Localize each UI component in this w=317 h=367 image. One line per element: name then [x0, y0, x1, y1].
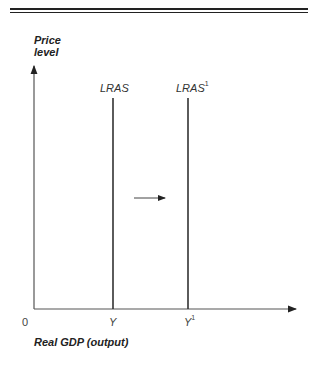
x-axis-label: Real GDP (output) [34, 336, 128, 348]
x-tick-y1: Y1 [184, 316, 195, 328]
lras-label: LRAS [100, 82, 129, 94]
x-tick-y: Y [109, 316, 116, 328]
lras1-label: LRAS1 [176, 82, 209, 94]
diagram-canvas [0, 0, 317, 367]
origin-label: 0 [22, 316, 28, 328]
